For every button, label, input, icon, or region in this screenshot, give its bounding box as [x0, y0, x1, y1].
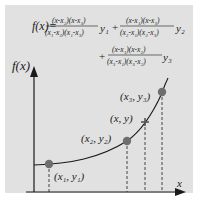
y-axis-label: f(x) [12, 58, 30, 73]
axes: f(x) x [12, 58, 186, 196]
term3-numerator: (x-x₁)(x-x₂) [112, 45, 146, 54]
term2-denominator: (x₂-x₁)(x₂-x₃) [120, 28, 159, 37]
plus-2: + [99, 50, 105, 62]
point-1-label: (x₁, y₁) [54, 170, 85, 183]
term1-y: y₁ [99, 22, 109, 34]
point-2-marker [123, 137, 131, 145]
term1-numerator: (x-x₂)(x-x₃) [52, 16, 86, 25]
term1-denominator: (x₁-x₂)(x₁-x₃) [45, 28, 84, 37]
formula: f(x)= (x-x₂)(x-x₃) (x₁-x₂)(x₁-x₃) y₁ + (… [32, 16, 185, 66]
point-interp-label: (x, y) [110, 112, 133, 125]
point-2-label: (x₂, y₂) [81, 132, 112, 145]
x-axis-label: x [176, 177, 182, 189]
point-3-label: (x₃, y₃) [120, 90, 151, 103]
lagrange-interpolation-diagram: f(x)= (x-x₂)(x-x₃) (x₁-x₂)(x₁-x₃) y₁ + (… [0, 0, 198, 198]
x-axis-arrow-icon [175, 188, 186, 196]
term3-denominator: (x₃-x₁)(x₃-x₂) [107, 57, 146, 66]
term2-numerator: (x-x₁)(x-x₃) [126, 16, 160, 25]
point-1-marker [45, 160, 53, 168]
term2-y: y₂ [175, 22, 185, 34]
point-3-marker [158, 88, 166, 96]
term3-y: y₃ [162, 51, 172, 63]
plus-1: + [112, 21, 118, 33]
y-axis-arrow-icon [30, 66, 38, 77]
